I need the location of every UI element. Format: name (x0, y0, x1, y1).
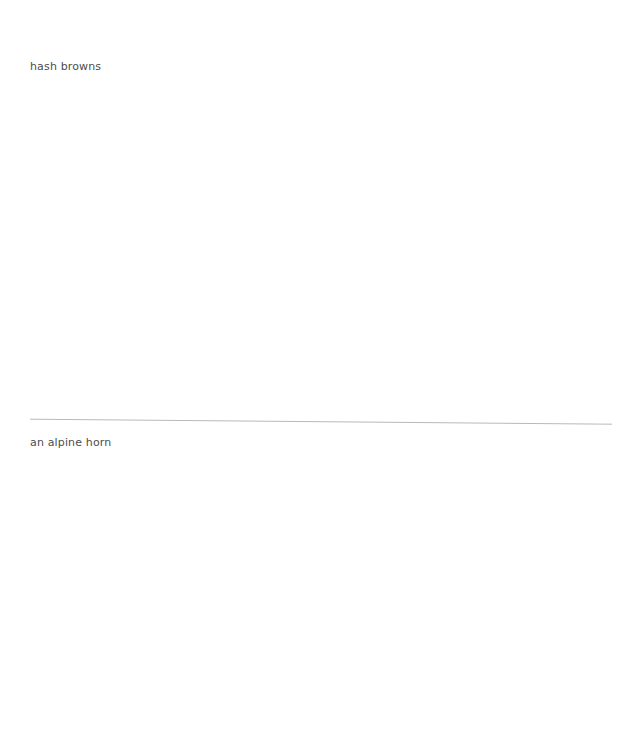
item-list: hash browns an alpine horn (0, 0, 626, 749)
list-item[interactable]: an alpine horn (0, 425, 626, 749)
list-row-separator (30, 412, 612, 426)
list-item-label: an alpine horn (30, 436, 111, 450)
list-item[interactable]: hash browns (0, 20, 626, 412)
list-item-label: hash browns (30, 60, 101, 74)
